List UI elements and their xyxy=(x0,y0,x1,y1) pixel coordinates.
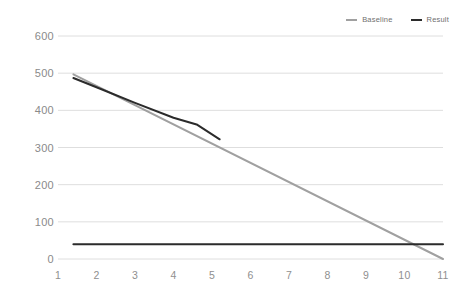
x-tick-label: 10 xyxy=(398,269,410,281)
x-tick-label: 8 xyxy=(324,269,330,281)
x-tick-label: 4 xyxy=(170,269,176,281)
x-tick-label: 11 xyxy=(437,269,449,281)
line-chart: Baseline Result 6005004003002001000 1234… xyxy=(0,0,463,306)
x-tick-label: 5 xyxy=(209,269,215,281)
x-tick-label: 1 xyxy=(55,269,61,281)
x-tick-label: 9 xyxy=(363,269,369,281)
x-axis-labels: 1234567891011 xyxy=(0,0,463,306)
x-tick-label: 6 xyxy=(247,269,253,281)
x-tick-label: 3 xyxy=(132,269,138,281)
x-tick-label: 7 xyxy=(286,269,292,281)
x-tick-label: 2 xyxy=(93,269,99,281)
